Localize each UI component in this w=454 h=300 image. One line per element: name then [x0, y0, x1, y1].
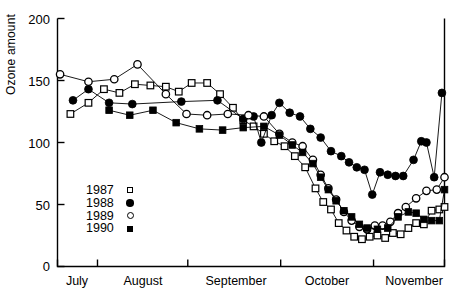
plot-area [0, 0, 454, 300]
data-point [296, 113, 304, 121]
data-point [412, 195, 419, 202]
data-point [183, 110, 190, 117]
data-point [268, 111, 276, 119]
data-point [150, 107, 157, 114]
data-point [368, 191, 376, 199]
data-point [405, 209, 412, 216]
data-point [275, 99, 283, 107]
data-point [397, 231, 404, 238]
data-point [335, 220, 342, 227]
data-point [428, 207, 435, 214]
data-series-group [56, 61, 448, 243]
data-point [69, 96, 77, 104]
data-point [105, 99, 113, 107]
data-point [111, 76, 118, 83]
data-point [276, 132, 283, 139]
data-point [214, 96, 222, 104]
data-point [312, 185, 319, 192]
data-point [382, 235, 389, 242]
data-point [67, 111, 74, 118]
data-point [224, 110, 231, 117]
data-point [405, 225, 412, 232]
data-point [196, 126, 203, 133]
data-point [374, 226, 381, 233]
data-point [85, 78, 92, 85]
data-point [289, 142, 296, 149]
data-point [433, 186, 440, 193]
data-point [281, 143, 288, 150]
data-point [327, 147, 335, 155]
data-point [399, 172, 407, 180]
data-point [343, 227, 350, 234]
data-point [436, 217, 443, 224]
data-point [126, 112, 133, 119]
data-point [147, 82, 154, 89]
data-point [188, 80, 195, 87]
data-point [423, 139, 431, 147]
data-point [163, 83, 170, 90]
data-point [413, 210, 420, 217]
data-point [320, 199, 327, 206]
data-point [374, 232, 381, 239]
data-point [421, 216, 428, 223]
data-point [132, 81, 139, 88]
data-point [353, 163, 361, 171]
data-point [428, 217, 435, 224]
data-point [317, 174, 324, 181]
data-point [271, 138, 278, 145]
data-point [56, 71, 63, 78]
data-point [348, 214, 355, 221]
data-point [384, 171, 392, 179]
data-point [328, 206, 335, 213]
data-point [306, 125, 314, 133]
data-point [134, 61, 141, 68]
data-point [410, 156, 418, 164]
series-1989 [56, 61, 448, 233]
data-point [106, 107, 113, 114]
data-point [302, 164, 309, 171]
data-point [85, 100, 92, 107]
data-point [423, 187, 430, 194]
data-point [376, 168, 384, 176]
data-point [261, 123, 268, 130]
data-point [384, 225, 391, 232]
data-point [359, 236, 366, 243]
data-point [260, 113, 267, 120]
data-point [413, 220, 420, 227]
data-point [337, 152, 345, 160]
data-point [441, 186, 448, 193]
data-point [395, 214, 402, 221]
data-point [299, 149, 306, 156]
data-point [175, 88, 182, 95]
data-point [438, 89, 446, 97]
data-point [361, 166, 369, 174]
ozone-chart-figure: Ozone amount 200 150 100 50 0 July Augus… [0, 0, 454, 300]
data-point [441, 174, 448, 181]
data-point [366, 233, 373, 240]
data-point [356, 221, 363, 228]
data-point [177, 98, 185, 106]
data-point [204, 80, 211, 87]
data-point [341, 207, 348, 214]
data-point [345, 158, 353, 166]
data-point [286, 109, 294, 117]
data-point [101, 86, 108, 93]
data-point [325, 186, 332, 193]
data-point [364, 225, 371, 232]
data-point [351, 233, 358, 240]
data-point [317, 134, 325, 142]
data-point [257, 139, 265, 147]
data-point [333, 197, 340, 204]
data-point [245, 112, 252, 119]
data-point [219, 127, 226, 134]
data-point [430, 173, 438, 181]
data-point [310, 160, 317, 167]
data-point [203, 112, 210, 119]
data-point [392, 172, 400, 180]
series-1990 [106, 107, 448, 233]
data-point [162, 90, 169, 97]
data-point [292, 153, 299, 160]
data-point [116, 90, 123, 97]
series-1988 [69, 85, 446, 198]
data-point [85, 85, 93, 93]
